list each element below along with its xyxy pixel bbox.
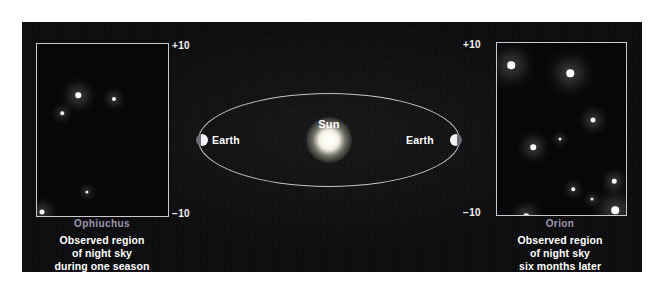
star xyxy=(530,144,536,150)
caption-left-line-1: Observed region xyxy=(22,234,192,247)
parallax-figure: +10 −10 Ophiuchus Observed region of nig… xyxy=(0,0,662,294)
star xyxy=(523,213,529,216)
star xyxy=(507,61,515,69)
caption-left: Ophiuchus Observed region of night sky d… xyxy=(22,218,192,272)
star xyxy=(112,97,116,101)
astronomy-panel: +10 −10 Ophiuchus Observed region of nig… xyxy=(22,22,642,272)
star xyxy=(566,69,574,77)
constellation-name-right: Orion xyxy=(470,218,642,229)
constellation-name-left: Ophiuchus xyxy=(22,218,192,229)
star xyxy=(591,198,594,201)
star xyxy=(611,206,619,214)
caption-right-line-1: Observed region xyxy=(470,234,642,247)
sky-region-box-right xyxy=(496,42,627,216)
scale-label-right-top: +10 xyxy=(463,39,481,50)
sun-label: Sun xyxy=(318,118,339,130)
caption-right: Orion Observed region of night sky six m… xyxy=(470,218,642,272)
scale-label-left-top: +10 xyxy=(172,40,190,51)
star xyxy=(60,111,64,115)
scale-label-right-bottom: −10 xyxy=(463,207,481,218)
earth-label-left: Earth xyxy=(212,134,240,146)
earth-label-right: Earth xyxy=(406,134,434,146)
star xyxy=(559,138,562,141)
star xyxy=(40,210,45,215)
star xyxy=(75,92,81,98)
star xyxy=(591,118,596,123)
earth-icon-left xyxy=(196,134,208,146)
star xyxy=(612,179,617,184)
caption-right-line-2: of night sky xyxy=(470,247,642,260)
caption-left-line-2: of night sky xyxy=(22,247,192,260)
earth-icon-right xyxy=(450,134,462,146)
star xyxy=(571,187,575,191)
caption-left-line-3: during one season xyxy=(22,260,192,272)
caption-right-line-3: six months later xyxy=(470,260,642,272)
star xyxy=(85,190,88,193)
sky-region-box-left xyxy=(36,43,169,217)
